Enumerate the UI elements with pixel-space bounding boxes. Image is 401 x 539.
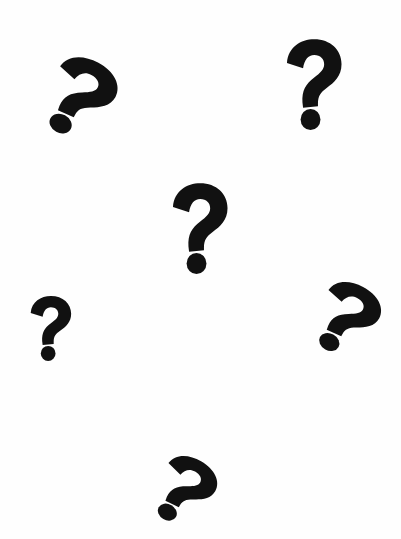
question-mark-icon-upper-right xyxy=(282,38,344,130)
question-mark-icon-middle-right xyxy=(298,270,391,366)
question-mark-icon-upper-left xyxy=(27,44,129,150)
question-mark-canvas xyxy=(0,0,401,539)
question-mark-icon-middle-left xyxy=(27,295,73,361)
question-mark-icon-center xyxy=(168,182,230,274)
question-mark-icon-bottom xyxy=(139,444,228,536)
